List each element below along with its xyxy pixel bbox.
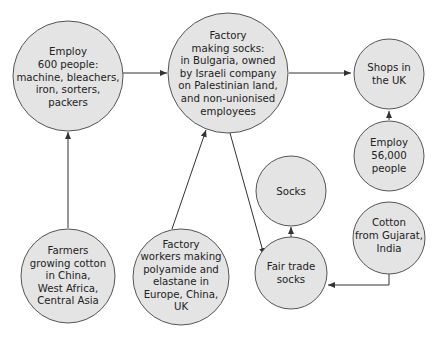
svg-text:Employ56,000people: Employ56,000people	[370, 137, 408, 174]
node-employ600: Employ600 people:machine, bleachers,iron…	[13, 21, 123, 131]
svg-text:Socks: Socks	[276, 186, 306, 197]
node-factory-workers: Factoryworkers makingpolyamide andelasta…	[133, 229, 229, 325]
node-cotton-gujarat: Cottonfrom Gujarat,India	[353, 202, 425, 274]
edge-workers-to-factory	[172, 130, 206, 229]
node-farmers: Farmersgrowing cottonin China,West Afric…	[21, 229, 115, 323]
node-shops-uk: Shops inthe UK	[354, 39, 424, 109]
node-employ56000: Employ56,000people	[354, 121, 424, 191]
svg-text:Factorymaking socks:in Bulgari: Factorymaking socks:in Bulgaria, ownedby…	[178, 30, 278, 117]
node-fair-trade-socks: Fair tradesocks	[255, 237, 327, 309]
flow-diagram: Employ600 people:machine, bleachers,iron…	[0, 0, 439, 337]
edge-cotton-to-fairtrade	[328, 274, 389, 285]
node-socks: Socks	[256, 156, 326, 226]
node-factory-bulgaria: Factorymaking socks:in Bulgaria, ownedby…	[168, 13, 288, 133]
